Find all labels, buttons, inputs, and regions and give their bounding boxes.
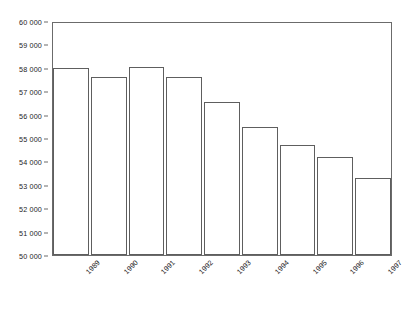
x-axis-tick-label: 1991 — [159, 258, 177, 276]
x-axis-tick-label: 1992 — [197, 258, 215, 276]
y-axis-tick-label: 52 000 — [19, 205, 42, 214]
y-axis-tick-mark — [44, 209, 48, 210]
bar — [280, 145, 316, 255]
y-axis-tick-mark — [44, 92, 48, 93]
x-axis-tick-label: 1989 — [84, 258, 102, 276]
y-axis-tick-label: 50 000 — [19, 252, 42, 261]
y-axis-tick-mark — [44, 22, 48, 23]
bar — [355, 178, 391, 255]
x-axis-tick-label: 1996 — [348, 258, 366, 276]
y-axis-tick-mark — [44, 232, 48, 233]
bar — [317, 157, 353, 255]
bar-chart: 60 00059 00058 00057 00056 00055 00054 0… — [0, 0, 405, 310]
y-axis-tick-mark — [44, 45, 48, 46]
y-axis-tick-mark — [44, 256, 48, 257]
x-axis: 198919901991199219931994199519961997 — [52, 258, 392, 308]
bar — [166, 77, 202, 255]
y-axis-tick-label: 55 000 — [19, 135, 42, 144]
plot-area — [52, 22, 392, 256]
y-axis-tick-mark — [44, 115, 48, 116]
y-axis-tick-label: 60 000 — [19, 18, 42, 27]
bar — [242, 127, 278, 255]
y-axis: 60 00059 00058 00057 00056 00055 00054 0… — [0, 22, 48, 256]
y-axis-tick-label: 51 000 — [19, 228, 42, 237]
bar — [204, 102, 240, 255]
y-axis-tick-label: 58 000 — [19, 64, 42, 73]
y-axis-tick-label: 54 000 — [19, 158, 42, 167]
x-axis-tick-label: 1993 — [235, 258, 253, 276]
x-axis-tick-label: 1997 — [386, 258, 404, 276]
x-axis-tick-label: 1990 — [122, 258, 140, 276]
y-axis-tick-label: 59 000 — [19, 41, 42, 50]
y-axis-tick-mark — [44, 68, 48, 69]
y-axis-tick-mark — [44, 139, 48, 140]
y-axis-tick-label: 57 000 — [19, 88, 42, 97]
bar — [91, 77, 127, 255]
bars-layer — [53, 23, 391, 255]
bar — [129, 67, 165, 255]
x-axis-tick-label: 1995 — [310, 258, 328, 276]
y-axis-tick-label: 53 000 — [19, 181, 42, 190]
y-axis-tick-mark — [44, 162, 48, 163]
y-axis-tick-label: 56 000 — [19, 111, 42, 120]
y-axis-tick-mark — [44, 185, 48, 186]
bar — [53, 68, 89, 255]
x-axis-tick-label: 1994 — [273, 258, 291, 276]
